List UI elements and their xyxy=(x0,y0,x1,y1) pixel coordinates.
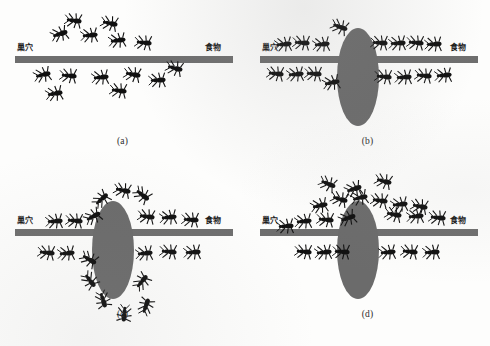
nest-label-a: 巢穴 xyxy=(16,42,33,52)
path-bar xyxy=(15,56,233,63)
panel-c: 巢穴 食物 xyxy=(0,173,245,346)
food-label-a: 食物 xyxy=(205,42,221,52)
panel-caption-d: (d) xyxy=(245,309,490,319)
ant-colony-obstacle-figure: 巢穴 食物 (a) xyxy=(0,0,490,346)
nest-label-d: 巢穴 xyxy=(261,215,278,225)
food-label-d: 食物 xyxy=(450,215,466,225)
panel-b: 巢穴 食物 (b) xyxy=(245,0,490,173)
panel-a: 巢穴 食物 (a) xyxy=(0,0,245,173)
nest-label-c: 巢穴 xyxy=(16,215,33,225)
panel-caption-c: (c) xyxy=(0,309,245,319)
food-label-c: 食物 xyxy=(205,215,221,225)
panel-caption-b: (b) xyxy=(245,136,490,146)
panel-d: 巢穴 食物 xyxy=(245,173,490,346)
panel-caption-a: (a) xyxy=(0,136,245,146)
obstacle-ellipse xyxy=(337,28,379,126)
food-label-b: 食物 xyxy=(450,42,466,52)
nest-label-b: 巢穴 xyxy=(261,42,278,52)
